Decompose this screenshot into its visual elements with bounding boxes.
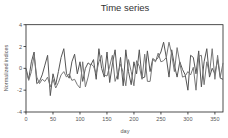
chart-title: Time series <box>101 2 150 13</box>
x-tick-label: 0 <box>24 116 27 122</box>
x-tick-label: 200 <box>129 116 138 122</box>
y-tick-label: -2 <box>17 87 22 93</box>
y-axis: -4-2024 <box>17 22 26 115</box>
x-axis: 050100150200250300350 <box>24 112 219 122</box>
y-tick-label: 4 <box>19 22 22 28</box>
y-tick-label: 0 <box>19 65 22 71</box>
x-tick-label: 150 <box>102 116 111 122</box>
x-tick-label: 250 <box>156 116 165 122</box>
x-tick-label: 50 <box>50 116 56 122</box>
x-tick-label: 300 <box>183 116 192 122</box>
y-tick-label: 2 <box>19 44 22 50</box>
plot-area: -4-2024 050100150200250300350 <box>17 22 223 122</box>
series-lines <box>26 42 223 95</box>
x-tick-label: 350 <box>210 116 219 122</box>
x-tick-label: 100 <box>75 116 84 122</box>
y-tick-label: -4 <box>17 109 22 115</box>
y-axis-label: Normalized indices <box>3 45 9 92</box>
x-axis-label: day <box>121 128 130 134</box>
line-chart: Time series -4-2024 05010015020025030035… <box>0 0 228 138</box>
